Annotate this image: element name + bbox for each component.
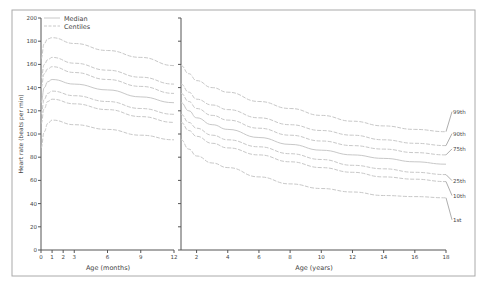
centile-label-75th: 75th <box>453 146 466 152</box>
x-tick-label: 3 <box>73 254 77 260</box>
x-axis-label-years: Age (years) <box>295 264 333 272</box>
centile-label-10th: 10th <box>453 193 466 199</box>
x-axis-label-months: Age (months) <box>86 264 130 272</box>
y-tick-label: 160 <box>27 61 38 67</box>
y-tick-label: 0 <box>34 247 38 253</box>
x-tick-label: 8 <box>288 254 292 260</box>
x-tick-label: 2 <box>61 254 65 260</box>
y-tick-label: 40 <box>30 201 37 207</box>
x-tick-label: 12 <box>349 254 356 260</box>
centile-label-99th: 99th <box>453 109 466 115</box>
x-tick-label: 14 <box>380 254 387 260</box>
legend-centiles-label: Centiles <box>64 23 91 31</box>
centile-label-25th: 25th <box>453 178 466 184</box>
y-tick-label: 140 <box>27 85 38 91</box>
x-tick-label: 1 <box>50 254 54 260</box>
x-tick-label: 6 <box>257 254 261 260</box>
y-axis-label: Heart rate (beats per min) <box>17 94 25 173</box>
y-tick-label: 100 <box>27 131 38 137</box>
chart-canvas: Median Centiles Heart rate (beats per mi… <box>0 0 485 289</box>
y-tick-label: 180 <box>27 38 38 44</box>
x-tick-label: 9 <box>139 254 143 260</box>
legend-median-label: Median <box>64 15 88 23</box>
y-tick-label: 120 <box>27 108 38 114</box>
x-tick-label: 10 <box>318 254 325 260</box>
y-tick-label: 80 <box>30 154 37 160</box>
heart-rate-centile-chart: Median Centiles Heart rate (beats per mi… <box>0 0 485 289</box>
y-tick-label: 60 <box>30 177 37 183</box>
x-tick-label: 6 <box>106 254 110 260</box>
x-tick-label: 12 <box>171 254 178 260</box>
centile-label-90th: 90th <box>453 131 466 137</box>
x-tick-label: 18 <box>443 254 450 260</box>
x-tick-label: 16 <box>411 254 418 260</box>
y-tick-label: 20 <box>30 224 37 230</box>
x-tick-label: 0 <box>39 254 43 260</box>
x-tick-label: 2 <box>195 254 199 260</box>
centile-label-1st: 1st <box>453 217 462 223</box>
y-tick-label: 200 <box>27 15 38 21</box>
x-tick-label: 4 <box>226 254 230 260</box>
